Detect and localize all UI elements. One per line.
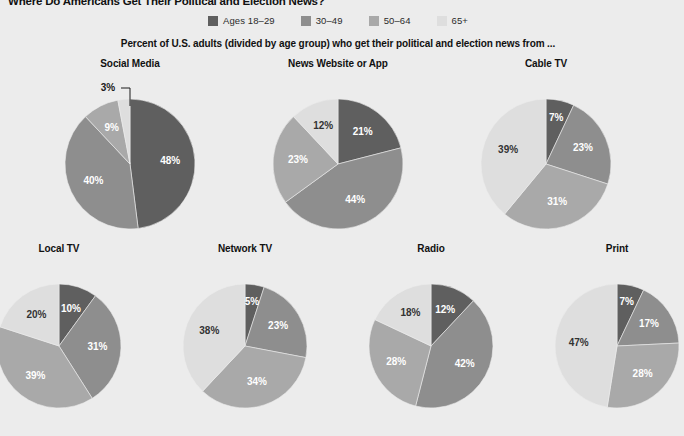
pie-slice-label: 38% <box>199 325 219 336</box>
pie-graphic: 48%40%9%3% <box>39 73 221 255</box>
pie-slice-label: 28% <box>633 368 653 379</box>
pie-graphic: 10%31%39%20% <box>0 258 147 434</box>
legend-swatch-icon <box>208 16 218 26</box>
pie-chart-title: News Website or App <box>288 58 388 69</box>
pie-chart-network-tv: Network TV5%23%34%38% <box>157 243 333 434</box>
pie-chart-news-website-or-app: News Website or App21%44%23%12% <box>247 58 429 255</box>
pie-slice-label: 7% <box>620 296 635 307</box>
legend: Ages 18–2930–4950–6465+ <box>0 15 676 26</box>
pie-chart-social-media: Social Media48%40%9%3% <box>39 58 221 255</box>
legend-item[interactable]: Ages 18–29 <box>208 15 275 26</box>
pie-slice-label: 44% <box>345 194 365 205</box>
legend-item[interactable]: 50–64 <box>369 15 411 26</box>
pie-slice-label: 39% <box>498 144 518 155</box>
legend-item-label: 30–49 <box>316 15 343 26</box>
pie-slice-label: 17% <box>639 318 659 329</box>
pie-row-top: Social Media48%40%9%3%News Website or Ap… <box>0 58 676 255</box>
pie-graphic: 7%17%28%47% <box>529 258 684 434</box>
pie-slice-label: 20% <box>26 309 46 320</box>
pie-slice-label: 7% <box>549 112 564 123</box>
legend-item-label: 50–64 <box>384 15 411 26</box>
pie-slice-label: 18% <box>400 307 420 318</box>
page-title: Where Do Americans Get Their Political a… <box>8 0 325 7</box>
legend-item[interactable]: 65+ <box>437 15 468 26</box>
pie-slice-label: 21% <box>353 126 373 137</box>
pie-slice-label: 10% <box>61 303 81 314</box>
pie-slice-label: 12% <box>313 120 333 131</box>
pie-graphic: 12%42%28%18% <box>343 258 519 434</box>
pie-slice-label: 39% <box>25 370 45 381</box>
pie-chart-title: Radio <box>417 243 444 254</box>
pie-chart-title: Social Media <box>100 58 159 69</box>
pie-slice-label: 23% <box>573 142 593 153</box>
pie-slice-label: 12% <box>435 304 455 315</box>
pie-slice-label: 34% <box>247 376 267 387</box>
pie-slice-label: 31% <box>87 341 107 352</box>
pie-chart-print: Print7%17%28%47% <box>529 243 684 434</box>
legend-item-label: Ages 18–29 <box>223 15 275 26</box>
legend-swatch-icon <box>369 16 379 26</box>
pie-slice-label: 47% <box>569 337 589 348</box>
legend-item[interactable]: 30–49 <box>301 15 343 26</box>
pie-chart-local-tv: Local TV10%31%39%20% <box>0 243 147 434</box>
pie-slice-label: 40% <box>83 175 103 186</box>
pie-slice-label: 28% <box>386 356 406 367</box>
pie-graphic: 7%23%31%39% <box>455 73 637 255</box>
pie-chart-title: Cable TV <box>525 58 567 69</box>
pie-slice-label: 23% <box>268 320 288 331</box>
pie-slice-label: 31% <box>547 196 567 207</box>
pie-slice-label: 9% <box>104 122 119 133</box>
pie-slice-label: 5% <box>245 296 260 307</box>
pie-graphic: 5%23%34%38% <box>157 258 333 434</box>
pie-slice-label: 3% <box>101 82 116 93</box>
pie-graphic: 21%44%23%12% <box>247 73 429 255</box>
legend-item-label: 65+ <box>452 15 468 26</box>
pie-chart-title: Print <box>606 243 628 254</box>
pie-chart-title: Network TV <box>218 243 272 254</box>
pie-slice-label: 48% <box>160 155 180 166</box>
pie-slice-label: 42% <box>455 358 475 369</box>
pie-chart-cable-tv: Cable TV7%23%31%39% <box>455 58 637 255</box>
legend-swatch-icon <box>437 16 447 26</box>
legend-swatch-icon <box>301 16 311 26</box>
pie-chart-radio: Radio12%42%28%18% <box>343 243 519 434</box>
pie-chart-title: Local TV <box>39 243 80 254</box>
pie-row-bottom: Local TV10%31%39%20%Network TV5%23%34%38… <box>0 243 676 434</box>
chart-subtitle: Percent of U.S. adults (divided by age g… <box>0 38 676 49</box>
pie-slice-label: 23% <box>288 154 308 165</box>
